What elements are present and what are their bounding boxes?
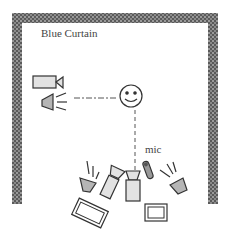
front-camera-center-icon [126,171,140,201]
microphone-icon [142,161,154,180]
curtain-label: Blue Curtain [41,27,98,39]
monitor-right-icon [145,204,167,221]
side-camera-icon [33,76,63,88]
front-light-left-icon [80,161,99,192]
mic-label: mic [145,143,162,155]
studio-setup-diagram: Blue Curtain mic [0,0,229,237]
front-camera-left-icon [98,165,125,199]
front-light-right-icon [160,162,187,194]
side-light-icon [42,93,67,110]
subject-smiley-icon [120,85,142,107]
monitor-left-icon [72,198,109,228]
